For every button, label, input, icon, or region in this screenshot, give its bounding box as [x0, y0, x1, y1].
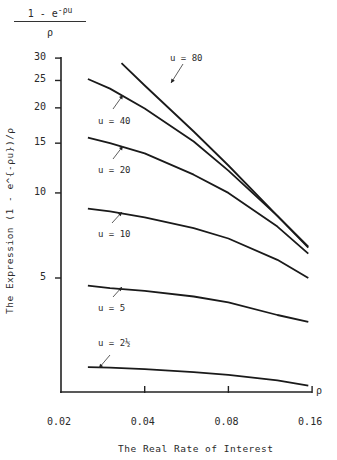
y-axis-label: The Expression (1 - e^{-ρu})/ρ — [4, 127, 15, 314]
series-label: u = 20 — [98, 165, 131, 175]
x-axis-label: The Real Rate of Interest — [118, 443, 274, 454]
curve-u-40 — [88, 79, 308, 248]
series-label: u = 40 — [98, 116, 131, 126]
series-label: u = 5 — [98, 303, 125, 313]
y-tick-label: 15 — [22, 136, 46, 147]
series-label: u = 2½ — [98, 338, 131, 348]
y-tick-label: 5 — [22, 271, 46, 282]
curve-u-10 — [88, 209, 308, 278]
x-tick-label: 0.16 — [298, 416, 322, 427]
y-tick-label: 10 — [22, 186, 46, 197]
plot-area — [0, 0, 337, 460]
x-tick-label: 0.04 — [131, 416, 155, 427]
x-tick-label: 0.08 — [214, 416, 238, 427]
series-label: u = 80 — [170, 53, 203, 63]
y-tick-label: 25 — [22, 73, 46, 84]
y-tick-label: 30 — [22, 51, 46, 62]
x-axis-symbol: ρ — [316, 385, 322, 396]
curve-u-2- — [88, 367, 308, 386]
y-tick-label: 20 — [22, 101, 46, 112]
x-tick-label: 0.02 — [47, 416, 71, 427]
series-label: u = 10 — [98, 229, 131, 239]
